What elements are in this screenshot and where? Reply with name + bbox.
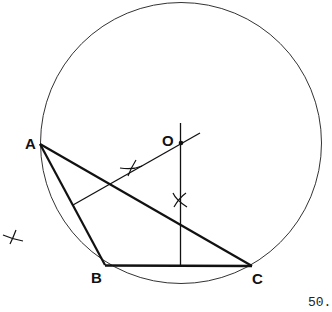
label-c: C xyxy=(252,270,263,287)
side-bc xyxy=(105,266,252,267)
label-a: A xyxy=(25,135,36,152)
center-point-o xyxy=(179,141,184,146)
page-number: 50. xyxy=(308,295,331,310)
arc-mark-outside xyxy=(3,230,23,244)
geometry-diagram: A O B C 50. xyxy=(0,0,332,312)
label-b: B xyxy=(91,269,102,286)
label-o: O xyxy=(162,132,174,149)
